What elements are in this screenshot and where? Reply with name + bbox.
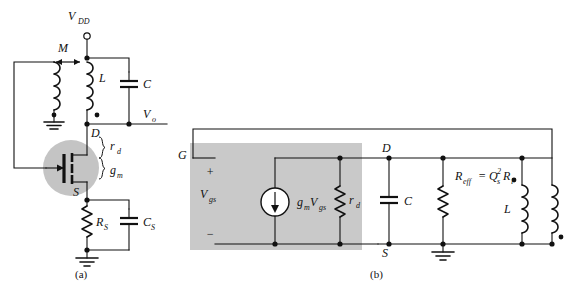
- reff-equals-q: = Q: [478, 169, 498, 183]
- rd-label-a: r: [110, 139, 115, 153]
- source-bottom-node-dot: [272, 241, 277, 246]
- vo-label: V: [143, 107, 152, 121]
- reff-rl-label: R: [502, 169, 511, 183]
- gm-sublabel-a: m: [117, 171, 123, 180]
- drain-label-b: D: [381, 141, 391, 155]
- effective-resistance-reff: [438, 158, 448, 244]
- secondary-bottom-node-dot: [549, 241, 554, 246]
- secondary-polarity-dot: [52, 113, 57, 118]
- figure-container: V DD M L: [0, 0, 566, 286]
- inductor-l-label-b: L: [503, 202, 511, 216]
- vgs-sublabel: gs: [209, 195, 216, 204]
- panel-a: V DD M L: [14, 9, 167, 281]
- vgs-plus-sign: +: [206, 165, 214, 179]
- drain-label-a: D: [90, 126, 100, 140]
- gm-label-a: g: [110, 163, 116, 177]
- reff-r-label: R: [454, 169, 463, 183]
- reff-eff-sublabel: eff: [463, 177, 473, 186]
- reff-q-sublabel: s: [497, 177, 500, 186]
- source-resistor-sublabel: S: [104, 223, 108, 232]
- inductor-l-top-node-dot: [519, 155, 524, 160]
- source-label-a: S: [73, 185, 79, 199]
- secondary-inductor-a: [54, 62, 60, 110]
- reff-top-node-dot: [440, 155, 445, 160]
- gmvgs-g-label: g: [297, 195, 303, 209]
- vdd-sublabel: DD: [77, 17, 90, 26]
- vo-sublabel: o: [152, 115, 156, 124]
- inductor-l-bottom-node-dot: [519, 241, 524, 246]
- fet-parameter-brace: [99, 137, 105, 179]
- primary-polarity-dot-b: [512, 178, 517, 183]
- source-capacitor-sublabel: S: [151, 223, 155, 232]
- gmvgs-gs-sublabel: gs: [319, 203, 326, 212]
- primary-inductor-a: [87, 62, 93, 110]
- source-resistor-label: R: [95, 215, 104, 229]
- panel-b: G + V gs − g m V gs r d: [178, 129, 563, 281]
- reff-q-superscript: 2: [497, 167, 501, 176]
- secondary-inductor-b: [552, 185, 558, 244]
- caption-a: (a): [75, 268, 88, 281]
- mutual-coupling-arrow: [56, 59, 80, 65]
- capacitor-c-label-b: C: [404, 194, 413, 208]
- source-resistor-a: [82, 200, 92, 250]
- secondary-polarity-dot-b: [559, 235, 564, 240]
- inductor-l-label-a: L: [98, 71, 106, 85]
- primary-polarity-dot: [95, 113, 100, 118]
- primary-inductor-b: [522, 185, 528, 244]
- mutual-label: M: [57, 41, 69, 55]
- source-capacitor-a: [120, 209, 138, 250]
- source-label-b: S: [382, 246, 388, 260]
- circuit-diagram-svg: V DD M L: [0, 0, 566, 286]
- rd-sublabel-a: d: [117, 147, 122, 156]
- caption-b: (b): [370, 268, 383, 281]
- source-bias-top-wire: [87, 200, 129, 209]
- supply-open-terminal: [84, 33, 90, 39]
- rd-bottom-node-dot: [337, 241, 342, 246]
- tank-capacitor-a: [120, 72, 138, 124]
- gate-label-b: G: [178, 148, 187, 162]
- capacitor-c-label-a: C: [143, 77, 152, 91]
- ground-symbol-a: [76, 258, 98, 266]
- vgs-minus-sign: −: [206, 227, 214, 241]
- ground-symbol-b: [432, 252, 454, 260]
- ground-coil-symbol: [44, 122, 64, 129]
- vdd-label: V: [68, 9, 77, 23]
- rd-label-b: r: [349, 193, 354, 207]
- output-node-dot: [126, 121, 131, 126]
- tank-capacitor-b: [380, 158, 398, 244]
